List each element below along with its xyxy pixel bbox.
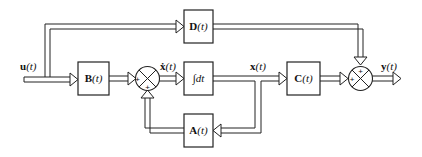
wire-state-to-A <box>213 81 261 137</box>
block-A-label: A <box>189 124 197 136</box>
svg-text:B(t): B(t) <box>85 72 103 85</box>
block-D-arg: (t) <box>197 20 208 33</box>
svg-text:A(t): A(t) <box>189 124 208 137</box>
integrator-label: ∫dt <box>192 72 206 85</box>
block-diagram: D(t) B(t) ∫dt A(t) C(t) + + + + <box>0 0 422 157</box>
sum1-sign-bottom: + <box>145 83 150 92</box>
block-integrator: ∫dt <box>184 62 213 95</box>
block-A: A(t) <box>184 114 213 147</box>
wire-B-to-sum1 <box>109 72 136 85</box>
wire-D-to-sum2 <box>213 24 367 65</box>
wire-C-to-sum2 <box>320 72 348 85</box>
signal-xdot-label: ẋ(t) <box>160 60 176 73</box>
summing-junction-2: + + <box>349 67 373 91</box>
wire-sum2-to-output <box>372 72 401 85</box>
sum2-sign-top: + <box>358 67 363 76</box>
block-A-arg: (t) <box>197 124 208 137</box>
signal-input-label: u(t) <box>20 60 37 73</box>
sum2-sign-left: + <box>350 75 355 84</box>
summing-junction-1: + + <box>135 67 159 93</box>
block-B-arg: (t) <box>92 72 103 85</box>
block-C-label: C <box>294 72 302 84</box>
svg-text:D(t): D(t) <box>189 20 208 33</box>
block-B: B(t) <box>78 62 109 95</box>
wire-sum1-to-integrator <box>159 72 184 85</box>
block-D: D(t) <box>184 10 213 43</box>
signal-output-label: y(t) <box>381 60 397 73</box>
block-C: C(t) <box>287 62 320 95</box>
block-D-label: D <box>189 20 197 32</box>
svg-text:C(t): C(t) <box>294 72 313 85</box>
block-C-arg: (t) <box>302 72 313 85</box>
wire-input-to-B <box>24 73 78 86</box>
wire-A-to-sum1 <box>141 90 184 133</box>
signal-state-label: x(t) <box>250 60 266 73</box>
sum1-sign-left: + <box>135 75 140 84</box>
wire-integrator-to-C <box>213 72 287 85</box>
